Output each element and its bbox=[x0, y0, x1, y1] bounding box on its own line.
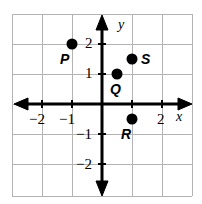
y-tick-label-minus2: −2 bbox=[76, 157, 92, 172]
data-point-s bbox=[127, 54, 138, 65]
x-tick-label-minus2: −2 bbox=[29, 112, 45, 127]
coordinate-plane-figure: y x −2 −1 2 2 1 −1 −2 P S Q R bbox=[0, 0, 202, 204]
point-label-q: Q bbox=[110, 82, 121, 96]
data-point-q bbox=[112, 69, 123, 80]
data-point-r bbox=[127, 114, 138, 125]
y-tick-label-minus1: −1 bbox=[76, 127, 92, 142]
point-label-s: S bbox=[141, 52, 150, 66]
y-axis-arrow-up bbox=[96, 15, 108, 30]
x-tick-label-2: 2 bbox=[157, 112, 165, 127]
y-tick-label-2: 2 bbox=[85, 36, 93, 51]
point-label-p: P bbox=[60, 52, 69, 66]
y-axis-arrow-down bbox=[96, 181, 108, 196]
point-label-r: R bbox=[121, 127, 131, 141]
y-tick-label-1: 1 bbox=[85, 66, 93, 81]
data-point-p bbox=[67, 39, 78, 50]
x-axis-arrow-left bbox=[14, 98, 28, 110]
x-tick-label-minus1: −1 bbox=[59, 112, 75, 127]
coordinate-plane-canvas bbox=[0, 0, 202, 204]
axes bbox=[14, 15, 192, 196]
x-axis-label: x bbox=[176, 110, 182, 124]
y-axis-label: y bbox=[118, 18, 124, 32]
